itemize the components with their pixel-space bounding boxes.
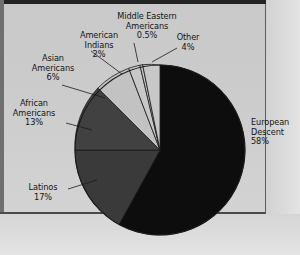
label-american-indians-value: 2% [93,49,106,59]
label-middle-eastern-line2: Americans [126,21,168,31]
pie-chart-figure: Middle Eastern Americans 0.5% American I… [0,0,300,255]
label-european-line2: Descent [251,127,284,137]
label-african-americans: African Americans 13% [3,99,65,128]
label-other: Other 4% [168,33,208,52]
label-asian-value: 6% [47,72,60,82]
label-latinos-line1: Latinos [29,182,58,192]
label-african-line2: Americans [13,108,55,118]
label-middle-eastern-line1: Middle Eastern [117,11,176,21]
label-other-line1: Other [177,32,200,42]
label-american-indians-line2: Indians [85,40,114,50]
label-latinos: Latinos 17% [19,183,67,202]
label-american-indians-line1: American [80,30,118,40]
label-asian-line2: Americans [32,63,74,73]
label-european-value: 58% [251,136,269,146]
label-middle-eastern-value: 0.5% [137,30,157,40]
label-european-descent: European Descent 58% [251,118,299,147]
label-african-line1: African [20,98,48,108]
label-other-value: 4% [182,42,195,52]
label-latinos-value: 17% [34,192,52,202]
label-african-value: 13% [25,117,43,127]
leader-line-middle-eastern-americans [134,43,138,62]
label-european-line1: European [251,117,289,127]
label-asian-line1: Asian [42,53,64,63]
label-asian-americans: Asian Americans 6% [22,54,84,83]
